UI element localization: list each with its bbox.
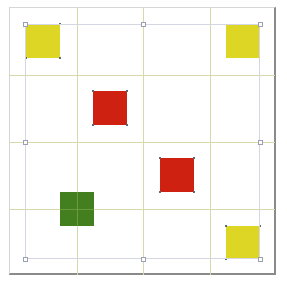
resize-handle-bottom-left[interactable] bbox=[23, 257, 28, 262]
resize-handle-left[interactable] bbox=[23, 140, 28, 145]
resize-handle-top-right[interactable] bbox=[258, 22, 263, 27]
resize-handle-bottom-right[interactable] bbox=[258, 257, 263, 262]
resize-handle-bottom[interactable] bbox=[141, 257, 146, 262]
resize-handle-top-left[interactable] bbox=[23, 22, 28, 27]
resize-handle-top[interactable] bbox=[141, 22, 146, 27]
selection-bounding-box[interactable] bbox=[25, 24, 260, 259]
resize-handle-right[interactable] bbox=[258, 140, 263, 145]
